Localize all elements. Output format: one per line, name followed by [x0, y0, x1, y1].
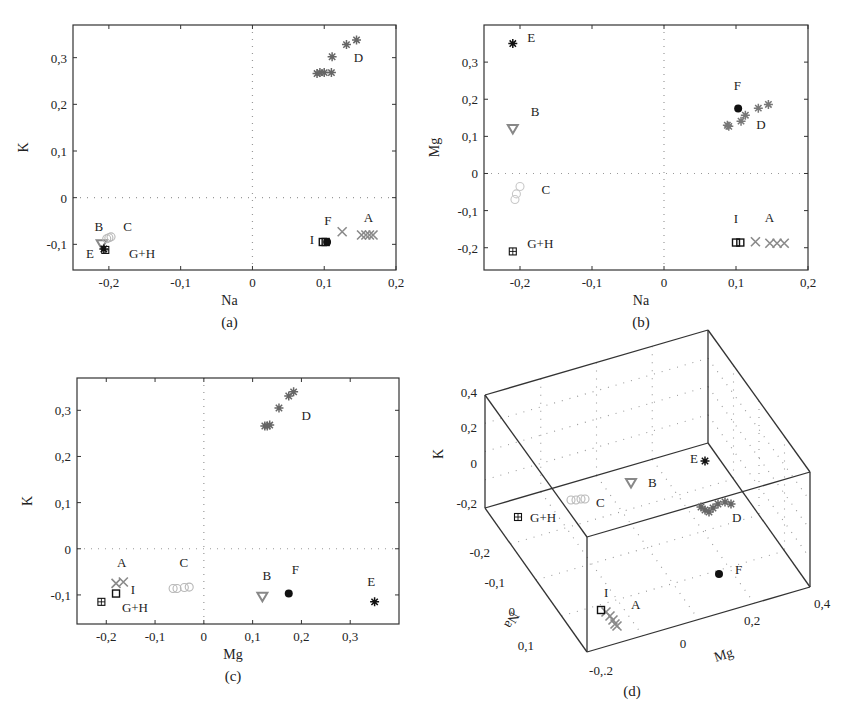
y-tick-label: -0,2: [457, 241, 478, 256]
star-marker-icon: [723, 121, 732, 130]
point-label: A: [631, 597, 641, 612]
mg-tick-label: 0,2: [744, 613, 760, 628]
x-tick-label: 0,2: [800, 275, 816, 290]
point-label: G+H: [527, 236, 553, 251]
y-tick-label: 0,2: [462, 92, 478, 107]
x-marker-icon: [357, 231, 366, 240]
star-marker-icon: [370, 597, 379, 606]
mg-tick-label: 0,4: [814, 596, 831, 611]
y-tick-label: 0,1: [51, 144, 67, 159]
point-label: A: [117, 555, 127, 570]
z-tick-label: 0: [471, 456, 478, 471]
point-label: F: [734, 78, 741, 93]
x-tick-label: 0,3: [342, 629, 358, 644]
dot-marker-icon: [285, 590, 293, 598]
square-plus-marker-icon-cross: [515, 514, 522, 521]
box-edge: [587, 587, 810, 652]
point-label: G+H: [129, 246, 155, 261]
point-label: C: [179, 555, 188, 570]
point-label: B: [531, 104, 540, 119]
x-tick-label: 0: [661, 275, 668, 290]
x-axis-label: Na: [221, 293, 238, 308]
star-marker-icon: [737, 117, 746, 126]
na-tick-label: -0,1: [484, 575, 505, 590]
star-marker-icon: [754, 104, 763, 113]
triangle-down-marker-icon: [626, 479, 636, 488]
x-tick-label: -0,1: [170, 275, 191, 290]
star-marker-icon: [328, 52, 337, 61]
dot-marker-icon: [734, 105, 742, 113]
x-tick-label: 0,1: [316, 275, 332, 290]
grid-line: [562, 551, 785, 616]
square-marker-icon: [733, 239, 740, 246]
y-tick-label: 0,3: [462, 55, 478, 70]
mg-axis-label: Mg: [712, 645, 735, 665]
plot-frame: [484, 25, 808, 270]
subplot-caption: (d): [623, 683, 641, 700]
x-tick-label: -0,2: [99, 275, 120, 290]
x-marker-icon: [338, 227, 347, 236]
z-tick-label: 0,4: [461, 385, 478, 400]
x-tick-label: 0,1: [245, 629, 261, 644]
plot-frame: [77, 378, 399, 624]
subplot-b-na-vs-mg: -0,2-0,100,10,2-0,2-0,100,10,20,3NaMg(b)…: [427, 25, 816, 331]
triangle-down-marker-icon: [508, 125, 518, 134]
figure-canvas: -0,2-0,100,10,2-0,100,10,20,3NaK(a)ABCDE…: [0, 0, 849, 720]
x-tick-label: 0,1: [728, 275, 744, 290]
subplot-c-mg-vs-k: -0,2-0,100,10,20,3-0,100,10,20,3MgK(c)AB…: [20, 378, 399, 685]
subplot-caption: (a): [221, 314, 238, 331]
point-label: F: [292, 562, 299, 577]
point-label: C: [542, 182, 551, 197]
x-marker-icon: [780, 239, 789, 248]
point-label: E: [367, 574, 375, 589]
x-tick-label: -0,1: [582, 275, 603, 290]
point-label: B: [648, 475, 657, 490]
star-marker-icon: [508, 39, 517, 48]
subplot-a-na-vs-k: -0,2-0,100,10,2-0,100,10,20,3NaK(a)ABCDE…: [16, 25, 404, 331]
y-axis-label: K: [16, 142, 31, 152]
x-tick-label: -0,2: [510, 275, 531, 290]
k-axis-label: K: [431, 449, 446, 459]
grid-line: [485, 415, 708, 480]
y-axis-label: K: [20, 496, 35, 506]
point-label: E: [86, 246, 94, 261]
circle-open-marker-icon: [516, 182, 524, 190]
point-label: C: [123, 219, 132, 234]
dot-marker-icon: [715, 570, 723, 578]
y-tick-label: -0,1: [50, 588, 71, 603]
na-axis-label: Na: [501, 609, 523, 631]
box-edge: [708, 443, 810, 587]
point-label: D: [354, 50, 363, 65]
square-plus-marker-icon-cross: [509, 248, 516, 255]
mg-tick-label: -0,.2: [589, 663, 613, 678]
star-marker-icon: [741, 111, 750, 120]
point-label: C: [596, 495, 605, 510]
point-label: I: [604, 585, 608, 600]
triangle-down-marker-icon: [257, 593, 267, 602]
star-marker-icon: [701, 457, 710, 466]
star-marker-icon: [265, 421, 274, 430]
point-label: A: [765, 210, 775, 225]
mg-tick-label: 0: [680, 636, 687, 651]
subplot-d-3d-mg-na-k: 0,40,20-0,2-0,2-0,100,1-0,.200,20,4KNaMg…: [431, 330, 831, 700]
y-tick-label: 0: [65, 542, 72, 557]
z-tick-label: -0,2: [456, 496, 477, 511]
x-axis-label: Na: [633, 293, 650, 308]
star-marker-icon: [764, 100, 773, 109]
star-marker-icon: [714, 500, 723, 509]
star-marker-icon: [274, 404, 283, 413]
y-tick-label: 0: [61, 191, 68, 206]
point-label: E: [690, 451, 698, 466]
star-marker-icon: [727, 500, 736, 509]
y-tick-label: 0,3: [51, 51, 67, 66]
x-tick-label: -0,1: [145, 629, 166, 644]
point-label: I: [131, 582, 135, 597]
star-marker-icon: [342, 40, 351, 49]
y-tick-label: -0,1: [46, 237, 67, 252]
point-label: D: [301, 408, 310, 423]
point-label: B: [95, 219, 104, 234]
x-tick-label: -0,2: [96, 629, 117, 644]
na-tick-label: -0,2: [469, 545, 490, 560]
circle-open-marker-icon: [512, 190, 520, 198]
grid-line: [485, 358, 708, 423]
